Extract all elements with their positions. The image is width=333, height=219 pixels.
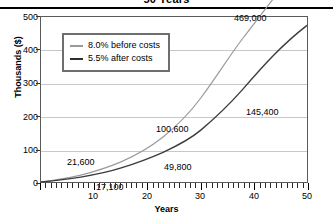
- chart-title: 50 Years: [0, 0, 333, 3]
- x-minor-tick-21: [153, 183, 154, 188]
- x-axis-title: Years: [0, 204, 333, 214]
- x-minor-tick-16: [126, 183, 127, 188]
- x-minor-tick-22: [158, 183, 159, 188]
- y-tick-label-100: 100: [0, 146, 38, 155]
- x-major-tick-30: [201, 183, 202, 190]
- x-minor-tick-8: [83, 183, 84, 188]
- legend-item-8-percent: 8.0% before costs: [70, 39, 160, 52]
- legend-label-5-5-percent: 5.5% after costs: [88, 54, 153, 63]
- x-minor-tick-43: [270, 183, 271, 188]
- x-minor-tick-12: [104, 183, 105, 188]
- x-minor-tick-23: [163, 183, 164, 188]
- x-minor-tick-13: [110, 183, 111, 188]
- x-minor-tick-46: [287, 183, 288, 188]
- x-minor-tick-15: [120, 183, 121, 188]
- x-minor-tick-18: [136, 183, 137, 188]
- x-minor-tick-14: [115, 183, 116, 188]
- x-minor-tick-42: [265, 183, 266, 188]
- y-tick-label-400: 400: [0, 46, 38, 55]
- data-label-100600: 100,600: [156, 125, 189, 134]
- y-axis-title: Thousands ($): [13, 22, 23, 112]
- x-minor-tick-34: [222, 183, 223, 188]
- data-label-49800: 49,800: [164, 163, 192, 172]
- x-minor-tick-9: [88, 183, 89, 188]
- x-minor-tick-49: [303, 183, 304, 188]
- legend-item-5-5-percent: 5.5% after costs: [70, 52, 160, 65]
- chart-container: 50 Years Thousands ($) Years 500 400 300…: [0, 0, 333, 219]
- x-minor-tick-28: [190, 183, 191, 188]
- x-minor-tick-3: [56, 183, 57, 188]
- y-tick-label-200: 200: [0, 113, 38, 122]
- x-minor-tick-48: [297, 183, 298, 188]
- x-minor-tick-11: [99, 183, 100, 188]
- x-minor-tick-44: [276, 183, 277, 188]
- title-divider: [0, 7, 333, 9]
- chart-legend: 8.0% before costs 5.5% after costs: [62, 33, 170, 72]
- x-minor-tick-27: [185, 183, 186, 188]
- data-label-21600: 21,600: [67, 158, 95, 167]
- x-minor-tick-36: [233, 183, 234, 188]
- x-major-tick-0: [40, 183, 41, 190]
- x-tick-label-30: 30: [185, 192, 215, 201]
- data-label-145400: 145,400: [246, 108, 279, 117]
- x-major-tick-10: [94, 183, 95, 190]
- y-tick-label-0: 0: [0, 179, 38, 188]
- x-major-tick-40: [254, 183, 255, 190]
- x-minor-tick-37: [238, 183, 239, 188]
- x-minor-tick-38: [244, 183, 245, 188]
- x-minor-tick-7: [78, 183, 79, 188]
- x-minor-tick-2: [51, 183, 52, 188]
- x-minor-tick-41: [260, 183, 261, 188]
- x-minor-tick-24: [169, 183, 170, 188]
- x-tick-label-50: 50: [292, 192, 322, 201]
- data-label-469000: 469,000: [234, 14, 267, 23]
- x-minor-tick-25: [174, 183, 175, 188]
- x-major-tick-50: [308, 183, 309, 190]
- legend-label-8-percent: 8.0% before costs: [88, 41, 160, 50]
- x-minor-tick-33: [217, 183, 218, 188]
- x-minor-tick-1: [45, 183, 46, 188]
- x-minor-tick-45: [281, 183, 282, 188]
- x-tick-label-20: 20: [132, 192, 162, 201]
- x-minor-tick-47: [292, 183, 293, 188]
- x-minor-tick-39: [249, 183, 250, 188]
- x-minor-tick-4: [61, 183, 62, 188]
- x-minor-tick-35: [228, 183, 229, 188]
- x-minor-tick-17: [131, 183, 132, 188]
- x-minor-tick-26: [179, 183, 180, 188]
- legend-swatch-icon-8-percent: [70, 45, 83, 47]
- series-line-8-percent: [41, 0, 307, 182]
- x-tick-label-10: 10: [78, 192, 108, 201]
- legend-swatch-icon-5-5-percent: [70, 58, 83, 60]
- x-minor-tick-5: [67, 183, 68, 188]
- y-tick-label-300: 300: [0, 79, 38, 88]
- x-minor-tick-19: [142, 183, 143, 188]
- x-major-tick-20: [147, 183, 148, 190]
- y-tick-label-500: 500: [0, 13, 38, 22]
- x-minor-tick-29: [195, 183, 196, 188]
- x-tick-label-40: 40: [239, 192, 269, 201]
- x-minor-tick-6: [72, 183, 73, 188]
- x-minor-tick-31: [206, 183, 207, 188]
- x-minor-tick-32: [212, 183, 213, 188]
